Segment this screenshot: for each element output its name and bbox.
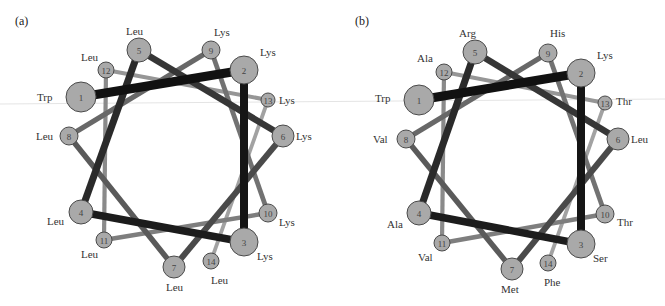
- residue-number: 1: [417, 96, 422, 106]
- residue-name: Lys: [279, 94, 295, 106]
- panel-a-label: (a): [15, 14, 28, 28]
- residue-name: Trp: [37, 91, 53, 103]
- residue-number: 7: [172, 263, 177, 273]
- residue-number: 12: [102, 66, 111, 76]
- residue-name: Ala: [387, 218, 403, 230]
- residue-number: 8: [67, 132, 72, 142]
- residue-name: Lys: [214, 26, 230, 38]
- residue-name: Ser: [593, 252, 608, 264]
- residue-node-3: 3Ser: [567, 230, 608, 264]
- residue-node-5: 5Leu: [126, 25, 151, 62]
- residue-node-12: 12Leu: [81, 51, 114, 78]
- residue-name: Phe: [544, 276, 561, 288]
- residue-name: Val: [418, 251, 433, 263]
- residue-node-14: 14Leu: [203, 253, 229, 286]
- residue-name: Leu: [126, 25, 144, 37]
- residue-name: His: [550, 27, 565, 39]
- residue-node-4: 4Ala: [387, 201, 431, 230]
- residue-node-13: 13Lys: [261, 93, 295, 107]
- residue-name: Leu: [211, 274, 229, 286]
- residue-number: 6: [616, 135, 621, 145]
- residue-node-8: 8Leu: [36, 127, 78, 145]
- residue-number: 3: [242, 238, 247, 248]
- residue-node-1: 1Trp: [37, 82, 96, 112]
- residue-number: 8: [404, 135, 409, 145]
- residue-number: 5: [473, 48, 478, 58]
- residue-name: Leu: [81, 248, 99, 260]
- residue-node-10: 10Thr: [596, 205, 633, 228]
- residue-name: Leu: [631, 133, 649, 145]
- residue-number: 7: [510, 265, 515, 275]
- residue-name: Lys: [597, 49, 613, 61]
- residue-node-4: 4Leu: [47, 200, 93, 227]
- residue-number: 4: [417, 209, 422, 219]
- residue-node-7: 7Leu: [163, 256, 185, 293]
- residue-node-2: 2Lys: [230, 46, 276, 84]
- residue-name: Trp: [375, 92, 391, 104]
- residue-number: 12: [440, 68, 449, 78]
- residue-name: Lys: [260, 46, 276, 58]
- residue-name: Lys: [257, 250, 273, 262]
- residue-name: Leu: [81, 51, 99, 63]
- residue-number: 13: [601, 99, 611, 109]
- residue-node-10: 10Lys: [259, 204, 295, 228]
- connector-5-6: [139, 50, 283, 136]
- residue-number: 3: [579, 240, 584, 250]
- helical-wheel-b: 14Phe13Thr12Ala11Val10Thr9His8Val7Met6Le…: [373, 27, 649, 295]
- residue-name: Leu: [36, 130, 54, 142]
- connector-5-6: [475, 52, 618, 139]
- residue-node-11: 11Leu: [81, 232, 112, 260]
- residue-number: 1: [79, 93, 84, 103]
- residue-name: Ala: [417, 52, 433, 64]
- residue-number: 14: [207, 257, 217, 267]
- residue-number: 11: [438, 239, 447, 249]
- residue-node-12: 12Ala: [417, 52, 452, 80]
- residue-node-9: 9Lys: [202, 26, 230, 59]
- residue-node-14: 14Phe: [540, 255, 561, 288]
- residue-number: 9: [209, 46, 214, 56]
- residue-name: Leu: [166, 281, 184, 293]
- residue-number: 4: [79, 208, 84, 218]
- residue-name: Lys: [279, 216, 295, 228]
- residue-node-13: 13Thr: [598, 95, 632, 110]
- residue-node-3: 3Lys: [230, 228, 273, 262]
- residue-node-2: 2Lys: [567, 49, 613, 87]
- residue-node-7: 7Met: [501, 258, 523, 295]
- residue-name: Arg: [459, 27, 476, 39]
- residue-name: Leu: [47, 215, 65, 227]
- residue-node-9: 9His: [539, 27, 565, 62]
- panel-b-label: (b): [355, 14, 369, 28]
- residue-number: 11: [100, 236, 109, 246]
- residue-node-6: 6Leu: [607, 128, 649, 150]
- helical-wheel-a: 14Leu13Lys12Leu11Leu10Lys9Lys8Leu7Leu6Ly…: [36, 25, 312, 293]
- residue-name: Val: [373, 133, 388, 145]
- residue-number: 14: [544, 259, 554, 269]
- residue-number: 13: [264, 96, 274, 106]
- residue-node-8: 8Val: [373, 130, 415, 148]
- residue-number: 2: [242, 66, 247, 76]
- residue-number: 5: [137, 46, 142, 56]
- connector-6-7: [174, 136, 283, 267]
- helical-wheel-figure: (a) (b) 14Leu13Lys12Leu11Leu10Lys9Lys8Le…: [0, 0, 665, 306]
- residue-name: Met: [501, 283, 519, 295]
- residue-name: Thr: [617, 216, 633, 228]
- residue-node-1: 1Trp: [375, 85, 434, 115]
- residue-number: 9: [546, 49, 551, 59]
- residue-node-6: 6Lys: [272, 125, 312, 147]
- residue-name: Lys: [296, 130, 312, 142]
- residue-node-5: 5Arg: [459, 27, 487, 64]
- residue-number: 6: [281, 132, 286, 142]
- residue-node-11: 11Val: [418, 235, 450, 263]
- residue-number: 2: [579, 69, 584, 79]
- residue-name: Thr: [616, 95, 632, 107]
- residue-number: 10: [264, 209, 274, 219]
- residue-number: 10: [601, 210, 611, 220]
